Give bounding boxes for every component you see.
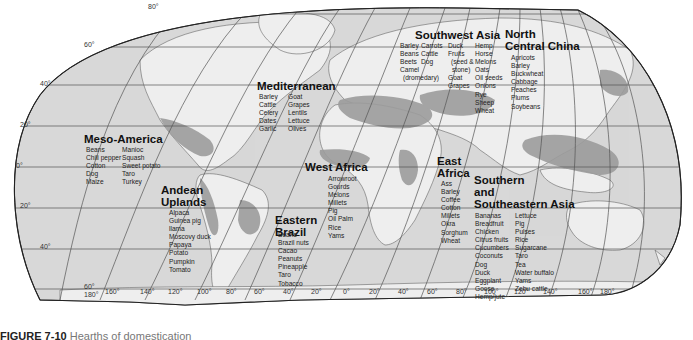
crop-item: Moscovy duck [169, 233, 211, 241]
lat-label-20s: 20° [20, 202, 31, 209]
crop-item: Bananas [475, 212, 509, 220]
crop-item: Yams [328, 232, 357, 240]
region-title-line: Southern [474, 174, 575, 186]
crop-item: Grapes [288, 101, 310, 109]
crop-item: Chicken [475, 228, 509, 236]
crop-item: Cattle [259, 101, 278, 109]
lat-label-80: 80° [148, 3, 159, 10]
east-africa-list: Ass Barley Coffee Cotton Millets Okra So… [441, 180, 468, 245]
region-title-line: Southeastern Asia [474, 198, 575, 210]
crop-item: Millets [441, 212, 468, 220]
figure-caption-text: Hearths of domestication [70, 330, 192, 340]
crop-item: Coffee [441, 196, 468, 204]
region-title-line: Andean [161, 184, 206, 196]
crop-item: Ass [441, 180, 468, 188]
crop-item: Wheat [441, 237, 468, 245]
southeast-asia-list-2: Lettuce Pig Pulses Rice Sugarcane Taro T… [515, 212, 554, 293]
crop-item: Rye [475, 91, 503, 99]
crop-item: Onions [475, 82, 503, 90]
crop-item: Arrowroot [328, 175, 357, 183]
lon-label-140w: 140° [140, 288, 154, 295]
region-title-southern-southeastern-asia: Southern and Southeastern Asia [474, 174, 575, 210]
crop-item: Melons [328, 191, 357, 199]
crop-item: Sugarcane [515, 244, 554, 252]
crop-item: Eggplant [475, 277, 509, 285]
crop-item: Pulses [515, 228, 554, 236]
crop-item: Dates [259, 117, 278, 125]
crop-item: Cacao [278, 247, 309, 255]
crop-item: Cotton [441, 204, 468, 212]
crop-item: Lentils [288, 109, 310, 117]
crop-item: Breadfruit [475, 220, 509, 228]
region-title-east-africa: East Africa [437, 155, 470, 179]
lon-label-180e: 180° [600, 288, 614, 295]
crop-item: Taro [278, 271, 309, 279]
crop-item: Zebu cattle [515, 285, 554, 293]
crop-item: Cattle [421, 50, 443, 58]
crop-item: Pumpkin [169, 258, 211, 266]
crop-item: Celery [259, 109, 278, 117]
crop-item: Millets [328, 199, 357, 207]
lat-label-60n: 60° [84, 41, 95, 48]
crop-item: Beans [86, 146, 121, 154]
lon-label-20e: 20° [369, 288, 380, 295]
crop-item: Squash [122, 154, 161, 162]
meso-america-list-1: Beans Chili pepper Cotton Dog Maize [86, 146, 121, 186]
lon-label-40w: 40° [283, 288, 294, 295]
crop-item: Chili pepper [86, 154, 121, 162]
crop-item: Lettuce [288, 117, 310, 125]
crop-item: Duck [448, 42, 474, 50]
lat-label-40n: 40° [40, 80, 51, 87]
southwest-asia-list-2: Carrots Cattle Dog [421, 42, 443, 66]
region-title-line: Uplands [161, 196, 206, 208]
region-title-north-central-china: North Central China [505, 28, 580, 52]
crop-item: Tomato [169, 266, 211, 274]
crop-item: Duck [475, 269, 509, 277]
lon-label-60w: 60° [254, 288, 265, 295]
crop-item: Grapes [448, 82, 474, 90]
lon-label-160w: 160° [105, 288, 119, 295]
crop-item: Okra [441, 220, 468, 228]
mediterranean-list-2: Goat Grapes Lentils Lettuce Olives [288, 93, 310, 133]
crop-item: Rice [328, 224, 357, 232]
crop-item: Hemp [475, 42, 503, 50]
crop-item: Camel [400, 66, 439, 74]
crop-item: Pig [515, 220, 554, 228]
crop-item: Peanuts [278, 255, 309, 263]
crop-item: Cotton [86, 162, 121, 170]
crop-item: Turkey [122, 178, 161, 186]
lon-label-160e: 160° [578, 288, 592, 295]
southwest-asia-list-3: Duck Fruits (seed & stone) Goat Grapes [448, 42, 474, 91]
crop-item: Hemp/jute [475, 293, 509, 301]
lon-label-0: 0° [343, 288, 350, 295]
crop-item: Oil Palm [328, 215, 357, 223]
crop-item: Melons [475, 58, 503, 66]
crop-item: Horse [475, 50, 503, 58]
region-title-southwest-asia: Southwest Asia [415, 29, 500, 41]
region-title-west-africa: West Africa [305, 161, 368, 173]
crop-item: Buckwheat [511, 70, 543, 78]
crop-item: Goat [288, 93, 310, 101]
lat-label-20n: 20° [20, 121, 31, 128]
crop-item: Guinea pig [169, 217, 211, 225]
lon-label-180w: 180° [84, 291, 98, 298]
lon-label-80w: 80° [226, 288, 237, 295]
crop-item: Cabbage [511, 78, 543, 86]
region-title-line: Eastern [275, 214, 317, 226]
crop-item: Peaches [511, 86, 543, 94]
andean-list: Alpaca Guinea pig llama Moscovy duck Pap… [169, 209, 211, 274]
crop-item: Dog [86, 170, 121, 178]
crop-item: Sorghum [441, 229, 468, 237]
region-title-meso-america: Meso-America [84, 133, 163, 145]
region-title-line: Central China [505, 40, 580, 52]
crop-item: Maize [86, 178, 121, 186]
crop-item: Goat [448, 74, 474, 82]
crop-item: llama [169, 225, 211, 233]
crop-item: Sweet potato [122, 162, 161, 170]
figure-caption: FIGURE 7-10 Hearths of domestication [0, 330, 191, 340]
crop-item: Lettuce [515, 212, 554, 220]
lon-label-20w: 20° [311, 288, 322, 295]
crop-item: Dog [475, 261, 509, 269]
crop-item: Coconuts [475, 252, 509, 260]
crop-item: Soybeans [511, 103, 543, 111]
